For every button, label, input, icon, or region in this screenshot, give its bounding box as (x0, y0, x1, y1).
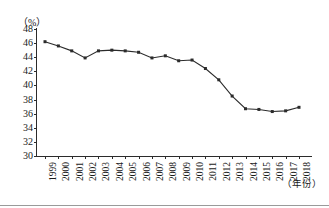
x-axis-tick (139, 156, 140, 159)
data-point-marker (150, 56, 153, 59)
x-axis-tick-label: 2007 (156, 162, 166, 181)
x-axis-tick (259, 156, 260, 159)
data-point-marker (110, 49, 113, 52)
x-axis-tick (98, 156, 99, 159)
data-point-marker (137, 51, 140, 54)
x-axis-tick (165, 156, 166, 159)
data-point-marker (191, 59, 194, 62)
x-axis-tick-label: 2010 (196, 162, 206, 181)
x-axis-tick (72, 156, 73, 159)
x-axis-tick-label: 2013 (236, 162, 246, 181)
x-axis-tick (85, 156, 86, 159)
x-axis-tick (58, 156, 59, 159)
x-axis-tick (232, 156, 233, 159)
x-axis-tick (125, 156, 126, 159)
x-axis-tick-label: 2004 (116, 162, 126, 181)
x-axis-tick (179, 156, 180, 159)
data-point-marker (177, 59, 180, 62)
series-line (45, 42, 299, 112)
data-point-marker (204, 67, 207, 70)
data-point-marker (271, 110, 274, 113)
x-axis-tick (205, 156, 206, 159)
y-axis-tick-label: 38 (23, 95, 33, 105)
data-series-line (37, 29, 309, 156)
y-axis-tick-label: 34 (23, 123, 33, 133)
data-point-marker (257, 108, 260, 111)
y-axis-tick (34, 156, 37, 157)
y-axis-tick-label: 42 (23, 66, 33, 76)
x-axis-tick (299, 156, 300, 159)
y-axis-tick-label: 40 (23, 80, 33, 90)
data-point-marker (84, 56, 87, 59)
data-point-marker (164, 54, 167, 57)
x-axis-tick-label: 2015 (263, 162, 273, 181)
x-axis-tick (152, 156, 153, 159)
data-point-marker (44, 40, 47, 43)
data-point-marker (217, 78, 220, 81)
x-axis-tick-label: 1999 (49, 162, 59, 181)
y-axis-tick-label: 30 (23, 151, 33, 161)
x-axis-tick-label: 2012 (223, 162, 233, 181)
bottom-divider (0, 205, 329, 206)
x-axis-title: （年份） (282, 176, 322, 190)
x-axis-tick-label: 2006 (143, 162, 153, 181)
x-axis-tick-label: 2002 (89, 162, 99, 181)
y-axis-tick-label: 44 (23, 52, 33, 62)
x-axis-tick-label: 2009 (183, 162, 193, 181)
x-axis-tick (246, 156, 247, 159)
y-axis-tick-label: 32 (23, 137, 33, 147)
x-axis-tick-label: 2011 (209, 162, 219, 181)
data-point-marker (284, 109, 287, 112)
x-axis-tick (272, 156, 273, 159)
x-axis-tick (192, 156, 193, 159)
plot-area: 48464442403836343230 1999200020012002200… (37, 29, 309, 156)
data-point-marker (124, 49, 127, 52)
y-axis-tick-label: 46 (23, 38, 33, 48)
data-point-marker (70, 49, 73, 52)
data-point-marker (231, 95, 234, 98)
y-axis-tick-label: 36 (23, 109, 33, 119)
x-axis-tick (112, 156, 113, 159)
x-axis-tick (219, 156, 220, 159)
x-axis-tick-label: 2003 (102, 162, 112, 181)
x-axis-line (36, 156, 312, 157)
x-axis-tick-label: 2005 (129, 162, 139, 181)
x-axis-tick-label: 2001 (76, 162, 86, 181)
x-axis-tick-label: 2014 (250, 162, 260, 181)
x-axis-tick (45, 156, 46, 159)
data-point-marker (298, 106, 301, 109)
data-point-marker (97, 49, 100, 52)
data-point-marker (57, 44, 60, 47)
x-axis-tick (286, 156, 287, 159)
y-axis-tick-label: 48 (23, 24, 33, 34)
x-axis-tick-label: 2000 (62, 162, 72, 181)
x-axis-tick-label: 2008 (169, 162, 179, 181)
data-point-marker (244, 107, 247, 110)
line-chart: （%） 48464442403836343230 199920002001200… (0, 0, 329, 208)
